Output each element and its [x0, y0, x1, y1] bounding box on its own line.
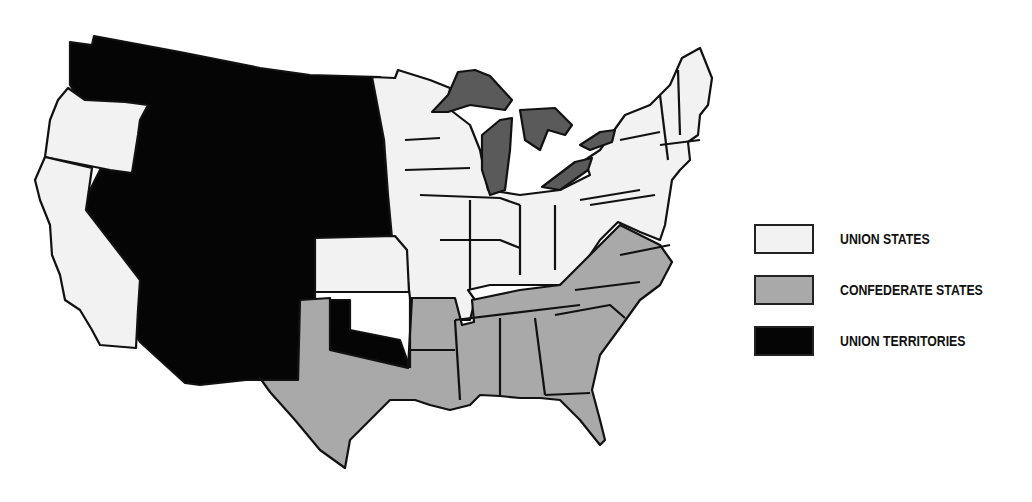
- us-civil-war-map: [0, 0, 740, 502]
- lake-michigan: [482, 118, 512, 195]
- legend-item-union-states: UNION STATES: [754, 222, 1014, 255]
- legend: UNION STATES CONFEDERATE STATES UNION TE…: [754, 222, 1014, 375]
- lake-huron: [520, 108, 572, 150]
- legend-label: UNION STATES: [840, 230, 930, 247]
- state-kansas: [315, 236, 409, 292]
- union-territories-swatch: [754, 326, 814, 356]
- legend-item-union-territories: UNION TERRITORIES: [754, 324, 1014, 357]
- legend-item-confederate-states: CONFEDERATE STATES: [754, 273, 1014, 306]
- legend-label: UNION TERRITORIES: [840, 332, 966, 349]
- legend-label: CONFEDERATE STATES: [840, 281, 983, 298]
- union-states-swatch: [754, 224, 814, 254]
- confederate-states-swatch: [754, 275, 814, 305]
